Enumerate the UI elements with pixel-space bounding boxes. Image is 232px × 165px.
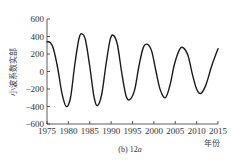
x-tick-label: 1995 — [124, 126, 143, 136]
x-tick-label: 1975 — [38, 126, 57, 136]
y-tick-label: 0 — [40, 67, 45, 77]
y-tick-label: −400 — [25, 102, 44, 112]
x-tick-label: 1990 — [102, 126, 121, 136]
figure-caption: (b) 12a — [118, 145, 141, 154]
y-tick-label: 400 — [31, 32, 45, 42]
x-tick-label: 2010 — [188, 126, 207, 136]
y-axis-label: 小波系数实部 — [8, 48, 18, 96]
y-ticks: 6004002000−200−400−600 — [25, 14, 50, 129]
caption-prefix: (b) 12 — [118, 145, 137, 154]
y-tick-label: −200 — [25, 84, 44, 94]
caption-italic: a — [138, 145, 142, 154]
x-tick-label: 2000 — [145, 126, 164, 136]
y-tick-label: 200 — [31, 49, 45, 59]
x-tick-label: 1980 — [59, 126, 78, 136]
x-axis-label: 年份 — [204, 138, 220, 148]
x-tick-label: 1985 — [81, 126, 100, 136]
x-tick-label: 2005 — [166, 126, 185, 136]
x-ticks: 197519801985199019952000200520102015 — [38, 121, 228, 136]
wavelet-line-chart: 6004002000−200−400−600 19751980198519901… — [0, 0, 232, 165]
y-tick-label: 600 — [31, 14, 45, 24]
x-tick-label: 2015 — [209, 126, 228, 136]
series-line — [47, 34, 218, 107]
